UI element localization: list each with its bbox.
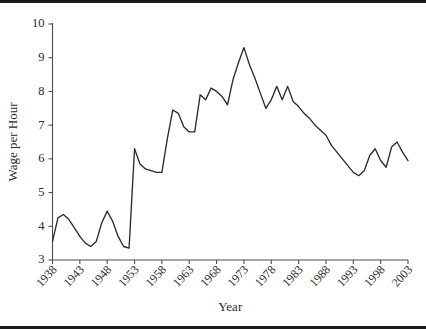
x-tick-label: 1953 xyxy=(115,262,142,289)
x-tick-label: 1938 xyxy=(33,262,60,289)
y-tick-label: 6 xyxy=(38,151,44,165)
x-tick-label: 1978 xyxy=(252,262,279,289)
y-tick-label: 4 xyxy=(38,219,45,233)
x-tick-label: 1963 xyxy=(170,262,197,289)
x-tick-label: 1943 xyxy=(60,262,87,289)
x-tick-label: 1998 xyxy=(361,262,388,289)
x-tick-label: 1968 xyxy=(197,262,224,289)
chart-figure: 345678910 193819431948195319581963196819… xyxy=(0,0,426,329)
x-axis-tick-group: 1938194319481953195819631968197319781983… xyxy=(33,260,415,290)
y-tick-label: 5 xyxy=(38,185,44,199)
x-tick-label: 1988 xyxy=(307,262,334,289)
y-tick-label: 9 xyxy=(38,50,44,64)
x-tick-label: 1983 xyxy=(279,262,306,289)
y-tick-label: 7 xyxy=(38,118,44,132)
x-axis-title: Year xyxy=(218,299,243,314)
y-tick-label: 10 xyxy=(32,16,45,30)
wage-series-line xyxy=(53,48,409,249)
x-tick-label: 1958 xyxy=(142,262,169,289)
x-tick-label: 2003 xyxy=(389,262,416,289)
x-tick-label: 1993 xyxy=(334,262,361,289)
y-axis-tick-group: 345678910 xyxy=(32,16,53,266)
x-tick-label: 1948 xyxy=(88,262,115,289)
y-axis-title: Wage per Hour xyxy=(5,102,20,182)
line-chart: 345678910 193819431948195319581963196819… xyxy=(0,3,426,329)
x-tick-label: 1973 xyxy=(225,262,252,289)
y-tick-label: 8 xyxy=(38,84,44,98)
y-tick-label: 3 xyxy=(38,252,44,266)
